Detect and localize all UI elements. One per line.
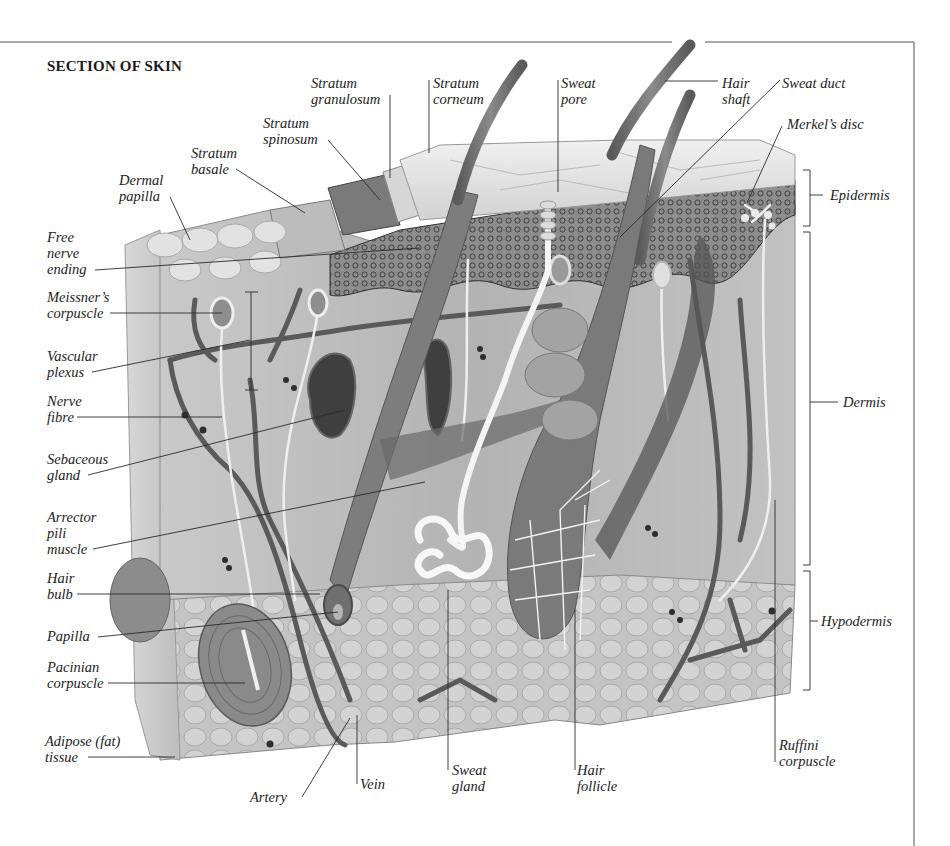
label-nerve-fibre: Nerve fibre (47, 393, 82, 425)
fat-lobule-left (110, 558, 170, 642)
label-sweat-duct: Sweat duct (782, 75, 845, 91)
label-arrector-pili-muscle: Arrector pili muscle (47, 509, 96, 557)
label-hair-bulb: Hair bulb (47, 570, 74, 602)
label-pacinian-corpuscle: Pacinian corpuscle (47, 659, 103, 691)
label-epidermis: Epidermis (830, 187, 890, 203)
label-meissners-corpuscle: Meissner’s corpuscle (47, 289, 109, 321)
label-sweat-pore: Sweat pore (561, 75, 596, 107)
label-vascular-plexus: Vascular plexus (47, 348, 98, 380)
label-ruffini-corpuscle: Ruffini corpuscle (779, 737, 835, 769)
label-adipose-tissue: Adipose (fat) tissue (45, 733, 120, 765)
skin-section-diagram: SECTION OF SKIN Stratum granulosum Strat… (0, 0, 950, 846)
label-stratum-corneum: Stratum corneum (433, 75, 484, 107)
label-stratum-basale: Stratum basale (191, 145, 237, 177)
hair-shaft-center (612, 45, 690, 155)
label-sebaceous-gland: Sebaceous gland (47, 451, 108, 483)
label-hypodermis: Hypodermis (821, 613, 892, 629)
label-papilla: Papilla (47, 628, 90, 644)
label-hair-shaft: Hair shaft (722, 75, 750, 107)
label-dermal-papilla: Dermal papilla (119, 172, 163, 204)
label-dermis: Dermis (843, 394, 886, 410)
label-stratum-spinosum: Stratum spinosum (263, 115, 318, 147)
label-sweat-gland: Sweat gland (452, 762, 487, 794)
label-merkels-disc: Merkel’s disc (787, 116, 864, 132)
label-stratum-granulosum: Stratum granulosum (311, 75, 380, 107)
diagram-title: SECTION OF SKIN (47, 58, 182, 75)
label-vein: Vein (360, 776, 385, 792)
label-artery: Artery (250, 789, 287, 805)
label-free-nerve-ending: Free nerve ending (47, 229, 86, 277)
label-hair-follicle: Hair follicle (577, 762, 617, 794)
